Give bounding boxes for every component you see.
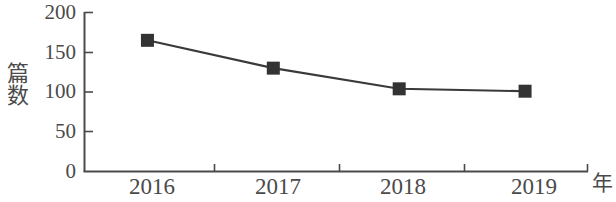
x-tick-row: 2017 — [233, 174, 323, 200]
x-tick-row: 2018 — [358, 174, 448, 200]
data-markers — [141, 34, 532, 98]
data-point-marker — [393, 82, 406, 95]
x-tick-row: 2016 — [107, 174, 197, 200]
line-chart: 篇数 200 150 100 50 0 2016 — [0, 0, 616, 202]
data-line — [147, 40, 525, 91]
data-point-marker — [141, 34, 154, 47]
plot-area — [0, 0, 616, 202]
x-tick-label: 2017 — [255, 174, 301, 199]
x-tick-row: 2019 — [489, 174, 579, 200]
data-point-marker — [519, 85, 532, 98]
x-axis-title: 年 — [592, 171, 613, 196]
x-tick-label: 2016 — [129, 174, 175, 199]
x-tick-label: 2018 — [380, 174, 426, 199]
x-tick-label: 2019 — [511, 174, 557, 199]
data-point-marker — [267, 62, 280, 75]
